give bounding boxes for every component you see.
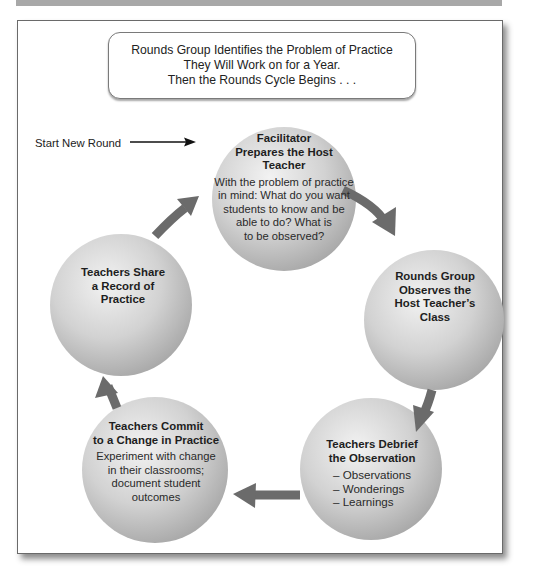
bullet-item: – Learnings xyxy=(333,495,411,509)
step-debrief: Teachers Debrief the Observation – Obser… xyxy=(313,438,431,509)
bullet-item: – Observations xyxy=(333,468,411,482)
step-observe: Rounds Group Observes the Host Teacher’s… xyxy=(380,270,490,324)
step-share: Teachers Share a Record of Practice xyxy=(68,266,178,307)
arrow-debrief-to-commit-icon xyxy=(233,483,300,508)
step-commit: Teachers Commit to a Change in Practice … xyxy=(90,420,222,504)
step-title: Facilitator Prepares the Host Teacher xyxy=(235,132,333,173)
step-bullet-list: – Observations – Wonderings – Learnings xyxy=(333,468,411,509)
step-title: Teachers Share a Record of Practice xyxy=(81,266,165,307)
step-description: With the problem of practice in mind: Wh… xyxy=(214,176,353,244)
step-prepare: Facilitator Prepares the Host Teacher Wi… xyxy=(212,132,356,243)
start-arrow-icon xyxy=(130,138,196,147)
step-title: Rounds Group Observes the Host Teacher’s… xyxy=(395,270,476,324)
arrow-commit-to-share-icon xyxy=(95,376,118,408)
step-title: Teachers Debrief the Observation xyxy=(326,438,418,465)
start-new-round-label: Start New Round xyxy=(35,137,121,149)
step-description: Experiment with change in their classroo… xyxy=(96,450,215,504)
step-title: Teachers Commit to a Change in Practice xyxy=(93,420,219,447)
arrow-share-to-prepare-icon xyxy=(155,196,199,236)
bullet-item: – Wonderings xyxy=(333,482,411,496)
